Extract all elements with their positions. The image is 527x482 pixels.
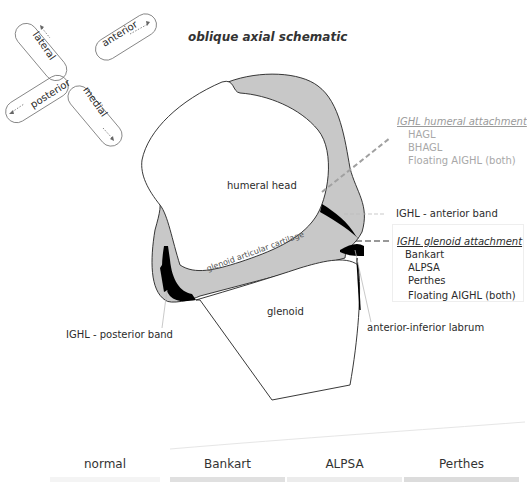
tab-alpsa-strip [287,477,402,482]
humeral-attachment-header: IGHL humeral attachment [397,116,527,128]
glenoid-attachment-item: ALPSA [408,262,440,274]
tab-bankart-strip [170,477,285,482]
tab-normal[interactable]: normal [50,457,160,471]
glenoid-attachment-item: Bankart [405,249,444,261]
ighl-posterior-band-label: IGHL - posterior band [66,329,173,341]
glenoid-label: glenoid [267,306,304,318]
orientation-compass [1,10,160,151]
humeral-attachment-item: HAGL [408,129,436,141]
glenoid-attachment-item: Perthes [408,275,446,287]
tab-normal-strip [50,477,160,482]
tab-perthes[interactable]: Perthes [404,457,519,471]
humeral-attachment-item: BHAGL [408,142,442,154]
ighl-anterior-band-label: IGHL - anterior band [396,208,498,220]
diagram-title: oblique axial schematic [188,30,347,44]
tab-alpsa[interactable]: ALPSA [287,457,402,471]
tab-perthes-strip [404,477,519,482]
glenoid-attachment-header: IGHL glenoid attachment [397,236,522,248]
divider-curve [170,422,525,449]
anterior-inferior-labrum-label: anterior-inferior labrum [367,322,484,334]
variant-tabs: normal Bankart ALPSA Perthes [0,457,525,482]
tab-bankart[interactable]: Bankart [170,457,285,471]
glenoid-attachment-extra: Floating AIGHL (both) [408,290,516,302]
humeral-head-label: humeral head [227,180,297,192]
humeral-attachment-item: Floating AIGHL (both) [408,155,516,167]
